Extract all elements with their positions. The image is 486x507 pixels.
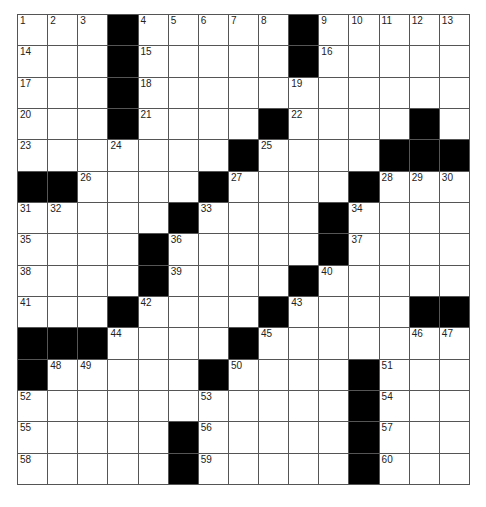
crossword-cell[interactable]	[78, 454, 107, 484]
crossword-cell[interactable]	[169, 46, 198, 76]
crossword-cell[interactable]	[440, 109, 469, 139]
crossword-cell[interactable]	[289, 328, 318, 358]
crossword-cell[interactable]	[259, 454, 288, 484]
crossword-cell[interactable]: 34	[349, 203, 378, 233]
crossword-cell[interactable]	[289, 234, 318, 264]
crossword-cell[interactable]: 46	[410, 328, 439, 358]
crossword-cell[interactable]	[229, 454, 258, 484]
crossword-cell[interactable]	[380, 266, 409, 296]
crossword-cell[interactable]: 36	[169, 234, 198, 264]
crossword-cell[interactable]	[108, 391, 137, 421]
crossword-cell[interactable]	[199, 328, 228, 358]
crossword-cell[interactable]: 52	[18, 391, 47, 421]
crossword-cell[interactable]	[289, 422, 318, 452]
crossword-cell[interactable]	[78, 109, 107, 139]
crossword-cell[interactable]	[410, 78, 439, 108]
crossword-cell[interactable]: 18	[139, 78, 168, 108]
crossword-cell[interactable]: 20	[18, 109, 47, 139]
crossword-cell[interactable]: 7	[229, 15, 258, 45]
crossword-cell[interactable]	[108, 266, 137, 296]
crossword-cell[interactable]	[48, 234, 77, 264]
crossword-cell[interactable]: 56	[199, 422, 228, 452]
crossword-cell[interactable]	[349, 109, 378, 139]
crossword-cell[interactable]	[229, 391, 258, 421]
crossword-cell[interactable]	[199, 46, 228, 76]
crossword-cell[interactable]	[259, 78, 288, 108]
crossword-cell[interactable]: 30	[440, 172, 469, 202]
crossword-cell[interactable]: 57	[380, 422, 409, 452]
crossword-cell[interactable]	[440, 422, 469, 452]
crossword-cell[interactable]	[108, 360, 137, 390]
crossword-cell[interactable]: 6	[199, 15, 228, 45]
crossword-cell[interactable]: 24	[108, 140, 137, 170]
crossword-cell[interactable]: 5	[169, 15, 198, 45]
crossword-cell[interactable]: 14	[18, 46, 47, 76]
crossword-cell[interactable]	[289, 140, 318, 170]
crossword-cell[interactable]	[229, 422, 258, 452]
crossword-cell[interactable]	[139, 328, 168, 358]
crossword-cell[interactable]	[108, 454, 137, 484]
crossword-cell[interactable]	[229, 266, 258, 296]
crossword-cell[interactable]: 17	[18, 78, 47, 108]
crossword-cell[interactable]	[349, 297, 378, 327]
crossword-cell[interactable]	[199, 109, 228, 139]
crossword-cell[interactable]: 1	[18, 15, 47, 45]
crossword-cell[interactable]	[229, 234, 258, 264]
crossword-cell[interactable]	[440, 78, 469, 108]
crossword-cell[interactable]	[169, 140, 198, 170]
crossword-cell[interactable]	[48, 422, 77, 452]
crossword-cell[interactable]	[199, 234, 228, 264]
crossword-cell[interactable]	[410, 454, 439, 484]
crossword-cell[interactable]	[48, 266, 77, 296]
crossword-cell[interactable]	[169, 391, 198, 421]
crossword-cell[interactable]	[169, 172, 198, 202]
crossword-cell[interactable]	[319, 78, 348, 108]
crossword-cell[interactable]: 47	[440, 328, 469, 358]
crossword-cell[interactable]	[289, 360, 318, 390]
crossword-cell[interactable]: 58	[18, 454, 47, 484]
crossword-cell[interactable]	[380, 46, 409, 76]
crossword-cell[interactable]: 38	[18, 266, 47, 296]
crossword-cell[interactable]: 35	[18, 234, 47, 264]
crossword-cell[interactable]: 9	[319, 15, 348, 45]
crossword-cell[interactable]: 27	[229, 172, 258, 202]
crossword-cell[interactable]	[289, 203, 318, 233]
crossword-cell[interactable]	[139, 360, 168, 390]
crossword-cell[interactable]	[78, 46, 107, 76]
crossword-cell[interactable]	[78, 297, 107, 327]
crossword-cell[interactable]	[440, 203, 469, 233]
crossword-cell[interactable]: 49	[78, 360, 107, 390]
crossword-cell[interactable]	[78, 266, 107, 296]
crossword-cell[interactable]	[169, 328, 198, 358]
crossword-cell[interactable]	[169, 297, 198, 327]
crossword-cell[interactable]	[48, 78, 77, 108]
crossword-cell[interactable]	[108, 422, 137, 452]
crossword-cell[interactable]	[78, 391, 107, 421]
crossword-cell[interactable]: 10	[349, 15, 378, 45]
crossword-cell[interactable]	[199, 266, 228, 296]
crossword-cell[interactable]	[410, 266, 439, 296]
crossword-cell[interactable]	[169, 78, 198, 108]
crossword-cell[interactable]	[78, 203, 107, 233]
crossword-cell[interactable]	[199, 297, 228, 327]
crossword-cell[interactable]	[349, 140, 378, 170]
crossword-cell[interactable]: 48	[48, 360, 77, 390]
crossword-cell[interactable]	[169, 360, 198, 390]
crossword-cell[interactable]	[410, 391, 439, 421]
crossword-cell[interactable]: 3	[78, 15, 107, 45]
crossword-cell[interactable]	[259, 172, 288, 202]
crossword-cell[interactable]: 21	[139, 109, 168, 139]
crossword-cell[interactable]	[259, 203, 288, 233]
crossword-cell[interactable]	[319, 391, 348, 421]
crossword-cell[interactable]	[380, 78, 409, 108]
crossword-cell[interactable]: 37	[349, 234, 378, 264]
crossword-cell[interactable]: 41	[18, 297, 47, 327]
crossword-cell[interactable]: 43	[289, 297, 318, 327]
crossword-cell[interactable]: 19	[289, 78, 318, 108]
crossword-cell[interactable]	[289, 172, 318, 202]
crossword-cell[interactable]	[319, 422, 348, 452]
crossword-cell[interactable]	[289, 391, 318, 421]
crossword-cell[interactable]: 51	[380, 360, 409, 390]
crossword-cell[interactable]	[259, 422, 288, 452]
crossword-cell[interactable]: 4	[139, 15, 168, 45]
